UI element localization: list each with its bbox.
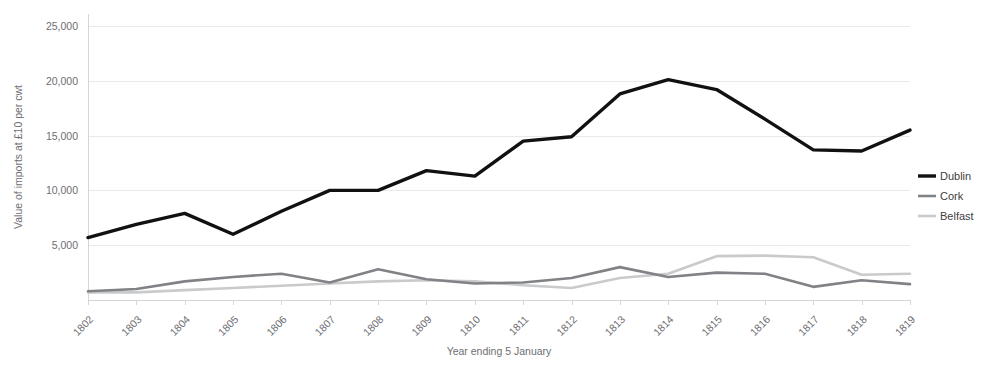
x-tick-label: 1807 bbox=[312, 313, 337, 338]
legend-label: Dublin bbox=[940, 170, 971, 182]
series-line-dublin bbox=[88, 80, 910, 238]
legend-label: Cork bbox=[940, 190, 964, 202]
x-tick-label: 1802 bbox=[70, 313, 95, 338]
x-tick-label: 1803 bbox=[119, 313, 144, 338]
x-tick-label: 1814 bbox=[651, 313, 676, 338]
chart-container: 5,00010,00015,00020,00025,000 1802180318… bbox=[0, 0, 993, 375]
y-tick-label: 5,000 bbox=[52, 239, 78, 251]
x-tick-label: 1804 bbox=[167, 313, 192, 338]
y-tick-label: 15,000 bbox=[46, 130, 78, 142]
y-tick-labels-group: 5,00010,00015,00020,00025,000 bbox=[46, 20, 78, 251]
x-tick-label: 1805 bbox=[215, 313, 240, 338]
x-tick-labels-group: 1802180318041805180618071808180918101811… bbox=[70, 313, 917, 338]
legend: DublinCorkBelfast bbox=[918, 170, 974, 222]
gridlines-group bbox=[88, 27, 910, 246]
x-tick-label: 1817 bbox=[796, 313, 821, 338]
legend-item-dublin[interactable]: Dublin bbox=[918, 170, 971, 182]
legend-label: Belfast bbox=[940, 210, 974, 222]
x-tick-label: 1819 bbox=[892, 313, 917, 338]
x-tick-label: 1808 bbox=[361, 313, 386, 338]
series-line-cork bbox=[88, 267, 910, 291]
x-tick-label: 1810 bbox=[457, 313, 482, 338]
x-tick-label: 1812 bbox=[554, 313, 579, 338]
x-tick-label: 1813 bbox=[602, 313, 627, 338]
data-series-group bbox=[88, 80, 910, 293]
y-axis-title: Value of imports at £10 per cwt bbox=[12, 85, 24, 229]
series-line-belfast bbox=[88, 256, 910, 293]
legend-item-cork[interactable]: Cork bbox=[918, 190, 964, 202]
y-tick-label: 20,000 bbox=[46, 75, 78, 87]
x-axis-title: Year ending 5 January bbox=[447, 345, 552, 357]
x-tick-label: 1809 bbox=[409, 313, 434, 338]
x-tick-label: 1806 bbox=[264, 313, 289, 338]
x-tick-label: 1815 bbox=[699, 313, 724, 338]
y-tick-label: 10,000 bbox=[46, 184, 78, 196]
x-tick-label: 1818 bbox=[844, 313, 869, 338]
x-tick-label: 1811 bbox=[506, 313, 531, 338]
line-chart: 5,00010,00015,00020,00025,000 1802180318… bbox=[0, 0, 993, 375]
legend-item-belfast[interactable]: Belfast bbox=[918, 210, 974, 222]
x-tick-label: 1816 bbox=[747, 313, 772, 338]
y-tick-label: 25,000 bbox=[46, 20, 78, 32]
